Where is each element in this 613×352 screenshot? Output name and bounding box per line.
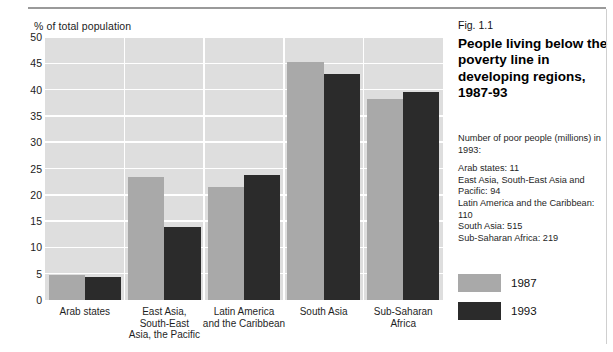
bar-1993-3 xyxy=(324,74,360,300)
bar-1993-4 xyxy=(403,92,439,300)
notes-item-0: Arab states: 11 xyxy=(458,163,610,175)
plot-area xyxy=(45,37,443,300)
x-axis-labels: Arab statesEast Asia,South-EastAsia, the… xyxy=(45,304,443,350)
right-divider xyxy=(606,9,608,344)
bar-1987-3 xyxy=(287,62,323,300)
bar-1993-1 xyxy=(164,227,200,300)
bar-1987-4 xyxy=(367,99,403,300)
y-tick-label-20: 20 xyxy=(2,189,42,201)
chart-legend: 19871993 xyxy=(458,272,610,328)
notes-intro: Number of poor people (millions) in 1993… xyxy=(458,133,610,156)
legend-label-1987: 1987 xyxy=(511,277,537,289)
notes-item-2: Latin America and the Caribbean: 110 xyxy=(458,198,610,221)
y-tick-label-5: 5 xyxy=(2,268,42,280)
legend-item-1987[interactable]: 1987 xyxy=(458,272,610,294)
y-axis-ticks: 05101520253035404550 xyxy=(0,37,42,300)
y-tick-label-45: 45 xyxy=(2,57,42,69)
y-tick-label-10: 10 xyxy=(2,241,42,253)
figure-headline: People living below the poverty line in … xyxy=(458,36,610,102)
y-axis-title: % of total population xyxy=(34,20,131,32)
y-tick-label-30: 30 xyxy=(2,136,42,148)
figure-number: Fig. 1.1 xyxy=(458,19,493,31)
notes-item-1: East Asia, South-East Asia and Pacific: … xyxy=(458,175,610,198)
bar-1987-0 xyxy=(49,275,85,300)
legend-swatch-1993 xyxy=(458,302,501,320)
bar-1993-0 xyxy=(85,277,121,300)
bar-group xyxy=(45,37,443,300)
bar-1987-2 xyxy=(208,187,244,300)
notes-item-3: South Asia: 515 xyxy=(458,221,610,233)
legend-swatch-1987 xyxy=(458,274,501,292)
legend-item-1993[interactable]: 1993 xyxy=(458,300,610,322)
y-tick-label-25: 25 xyxy=(2,163,42,175)
legend-label-1993: 1993 xyxy=(511,305,537,317)
y-tick-label-50: 50 xyxy=(2,31,42,43)
figure-notes: Number of poor people (millions) in 1993… xyxy=(458,133,610,244)
chart-area: % of total population 051015202530354045… xyxy=(0,0,452,352)
bar-1993-2 xyxy=(244,175,280,300)
y-tick-label-0: 0 xyxy=(2,294,42,306)
figure-root: % of total population 051015202530354045… xyxy=(0,0,613,352)
caption-panel: Fig. 1.1 People living below the poverty… xyxy=(458,0,613,352)
bar-1987-1 xyxy=(128,177,164,300)
y-tick-label-15: 15 xyxy=(2,215,42,227)
notes-spacer xyxy=(458,156,610,163)
y-tick-label-40: 40 xyxy=(2,84,42,96)
notes-item-4: Sub-Saharan Africa: 219 xyxy=(458,233,610,245)
x-tick-label-4: Sub-SaharanAfrica xyxy=(349,306,457,329)
y-tick-label-35: 35 xyxy=(2,110,42,122)
